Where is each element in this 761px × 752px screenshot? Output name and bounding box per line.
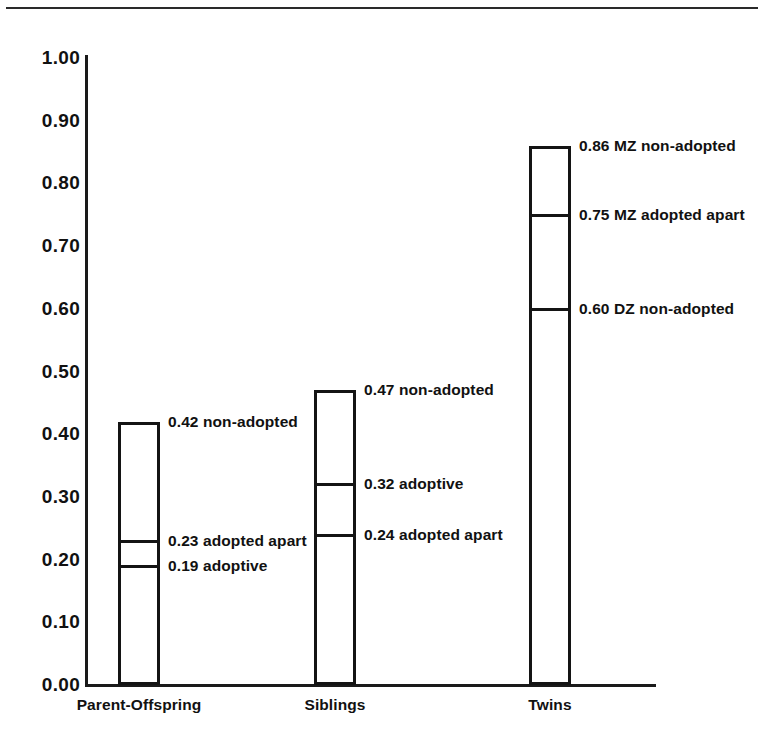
bar-segment-divider [314, 483, 356, 486]
data-point-label: 0.86 MZ non-adopted [579, 138, 736, 154]
bar-parent-offspring [118, 422, 160, 685]
top-border-rule [6, 7, 758, 9]
x-axis-category-label: Parent-Offspring [77, 697, 202, 713]
y-axis-tick-label: 0.20 [8, 550, 80, 569]
data-point-label: 0.75 MZ adopted apart [579, 207, 745, 223]
bar-segment-divider [118, 565, 160, 568]
y-axis-tick-label: 0.80 [8, 173, 80, 192]
x-axis-category-label: Siblings [304, 697, 365, 713]
y-axis-tick-label: 0.00 [8, 675, 80, 694]
y-axis-tick-label: 0.60 [8, 299, 80, 318]
bar-segment-divider [118, 540, 160, 543]
chart-figure: 1.000.900.800.700.600.500.400.300.200.10… [0, 0, 761, 752]
data-point-label: 0.23 adopted apart [168, 533, 307, 549]
y-axis-tick-label: 0.10 [8, 612, 80, 631]
data-point-label: 0.24 adopted apart [364, 527, 503, 543]
data-point-label: 0.19 adoptive [168, 558, 268, 574]
bar-segment-divider [529, 308, 571, 311]
y-axis-tick-label: 0.70 [8, 236, 80, 255]
y-axis-tick-label: 0.90 [8, 111, 80, 130]
y-axis-tick-label: 0.30 [8, 487, 80, 506]
y-axis-tick-label: 0.40 [8, 424, 80, 443]
bar-twins [529, 146, 571, 685]
bar-segment-divider [529, 214, 571, 217]
data-point-label: 0.32 adoptive [364, 476, 464, 492]
bar-siblings [314, 390, 356, 685]
x-axis-category-label: Twins [528, 697, 571, 713]
bar-segment-divider [314, 534, 356, 537]
data-point-label: 0.42 non-adopted [168, 414, 298, 430]
y-axis-tick-label: 0.50 [8, 362, 80, 381]
y-axis-line [85, 55, 88, 687]
data-point-label: 0.60 DZ non-adopted [579, 301, 734, 317]
data-point-label: 0.47 non-adopted [364, 382, 494, 398]
y-axis-tick-label: 1.00 [8, 48, 80, 67]
